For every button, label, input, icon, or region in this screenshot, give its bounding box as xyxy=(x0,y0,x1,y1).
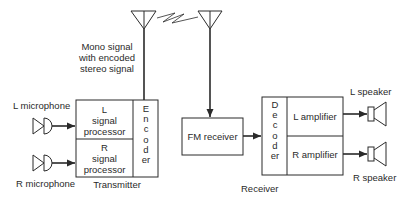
l-microphone-icon xyxy=(33,118,75,134)
r-amplifier-label: R amplifier xyxy=(287,149,343,160)
radio-wave-icon xyxy=(157,13,198,23)
l-speaker-label: L speaker xyxy=(350,86,391,97)
receiver-label: Receiver xyxy=(241,183,279,194)
r-signal-processor-label: R signal processor xyxy=(76,142,133,175)
transmission-note: Mono signal with encoded stereo signal xyxy=(72,41,142,74)
encoder-label: Encoder xyxy=(141,104,151,165)
l-amplifier-label: L amplifier xyxy=(287,111,343,122)
l-signal-processor-label: L signal processor xyxy=(76,104,133,137)
l-microphone-label: L microphone xyxy=(13,100,70,111)
transmitter-label: Transmitter xyxy=(76,179,158,190)
r-speaker-icon xyxy=(368,142,386,166)
r-microphone-icon xyxy=(33,155,75,171)
l-speaker-icon xyxy=(368,102,386,126)
receive-antenna-icon xyxy=(198,11,222,117)
fm-receiver-label: FM receiver xyxy=(182,131,243,142)
decoder-label: Decoder xyxy=(270,100,280,161)
r-microphone-label: R microphone xyxy=(16,178,75,189)
r-speaker-label: R speaker xyxy=(353,172,396,183)
